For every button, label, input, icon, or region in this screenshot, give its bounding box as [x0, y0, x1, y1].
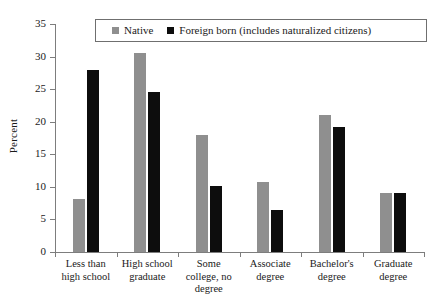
- category-label-line: Bachelor's: [301, 258, 363, 271]
- bar-foreign-born-3: [271, 210, 283, 252]
- category-label-0: Less thanhigh school: [55, 258, 117, 283]
- category-label-line: degree: [363, 271, 425, 284]
- bar-native-3: [257, 182, 269, 252]
- y-axis-title: Percent: [7, 106, 19, 166]
- x-tick-6: [424, 252, 425, 257]
- bar-foreign-born-0: [87, 70, 99, 252]
- category-label-line: degree: [240, 271, 302, 284]
- category-label-line: Less than: [55, 258, 117, 271]
- x-tick-5: [363, 252, 364, 257]
- x-tick-2: [178, 252, 179, 257]
- legend-item-native: Native: [112, 25, 153, 36]
- chart-title-cropped: [60, 0, 380, 3]
- category-label-line: Some: [178, 258, 240, 271]
- foreign-born-swatch-icon: [167, 27, 174, 34]
- category-label-line: high school: [55, 271, 117, 284]
- category-label-2: Somecollege, nodegree: [178, 258, 240, 296]
- y-tick-label-10: 10: [6, 181, 46, 192]
- category-label-line: Associate: [240, 258, 302, 271]
- y-tick-label-30: 30: [6, 51, 46, 62]
- bar-native-2: [196, 135, 208, 252]
- legend-label-native: Native: [124, 25, 153, 36]
- bar-native-5: [380, 193, 392, 252]
- x-tick-1: [117, 252, 118, 257]
- y-tick-label-25: 25: [6, 83, 46, 94]
- category-label-line: college, no: [178, 271, 240, 284]
- bar-native-0: [73, 199, 85, 252]
- bar-foreign-born-4: [333, 127, 345, 252]
- legend-label-foreign-born: Foreign born (includes naturalized citiz…: [179, 25, 371, 36]
- category-label-line: degree: [301, 271, 363, 284]
- x-tick-4: [301, 252, 302, 257]
- y-tick-label-5: 5: [6, 213, 46, 224]
- y-tick-label-35: 35: [6, 18, 46, 29]
- y-tick-label-0: 0: [6, 246, 46, 257]
- native-swatch-icon: [112, 27, 119, 34]
- plot-area: [55, 24, 424, 252]
- category-label-line: Graduate: [363, 258, 425, 271]
- bar-native-4: [319, 115, 331, 252]
- category-label-1: High schoolgraduate: [117, 258, 179, 283]
- category-label-line: degree: [178, 283, 240, 296]
- category-label-3: Associatedegree: [240, 258, 302, 283]
- bar-foreign-born-1: [148, 92, 160, 252]
- category-label-line: graduate: [117, 271, 179, 284]
- legend-item-foreign-born: Foreign born (includes naturalized citiz…: [167, 25, 371, 36]
- category-label-5: Graduatedegree: [363, 258, 425, 283]
- x-tick-0: [55, 252, 56, 257]
- bar-native-1: [134, 53, 146, 252]
- bar-chart: 05101520253035 Percent Less thanhigh sch…: [0, 0, 438, 306]
- category-label-line: High school: [117, 258, 179, 271]
- bar-foreign-born-2: [210, 186, 222, 252]
- x-tick-3: [240, 252, 241, 257]
- chart-legend: Native Foreign born (includes naturalize…: [95, 19, 427, 42]
- bar-foreign-born-5: [394, 193, 406, 252]
- category-label-4: Bachelor'sdegree: [301, 258, 363, 283]
